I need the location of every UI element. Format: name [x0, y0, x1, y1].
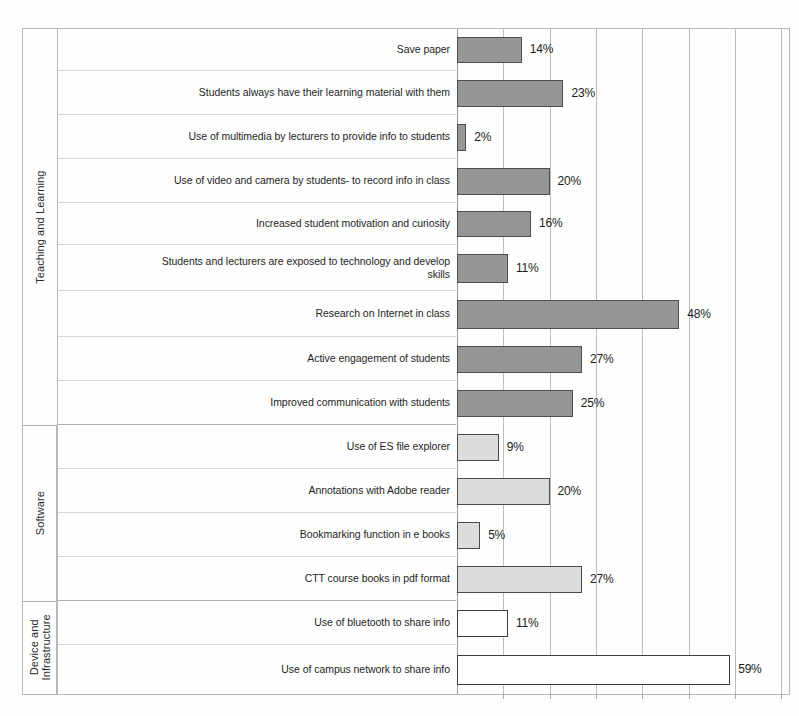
bar — [457, 254, 508, 283]
bar — [457, 124, 466, 151]
bar — [457, 478, 550, 505]
category-label-text: Use of video and camera by students- to … — [174, 174, 450, 187]
bar — [457, 434, 499, 461]
category-label-text: Save paper — [397, 43, 450, 56]
axis-tick — [689, 694, 690, 699]
category-label-row: CTT course books in pdf format — [58, 557, 456, 601]
bar-value-label: 9% — [507, 440, 524, 454]
group-axis-label-2: Software — [23, 425, 57, 601]
category-label-row: Use of campus network to share info — [58, 645, 456, 694]
category-label-text: Use of multimedia by lecturers to provid… — [189, 130, 450, 143]
category-label-row: Students and lecturers are exposed to te… — [58, 245, 456, 291]
axis-tick — [596, 694, 597, 699]
group-axis: Teaching and LearningSoftwareDevice and … — [23, 29, 57, 694]
axis-tick — [503, 694, 504, 699]
category-label-row: Use of ES file explorer — [58, 425, 456, 469]
bar — [457, 37, 522, 63]
category-label-row: Annotations with Adobe reader — [58, 469, 456, 513]
category-label-row: Save paper — [58, 29, 456, 71]
category-label-text: Active engagement of students — [307, 352, 450, 365]
group-axis-label-text: Teaching and Learning — [34, 170, 46, 283]
bar-row: 14% — [457, 29, 790, 71]
category-label-text: Use of ES file explorer — [347, 440, 450, 453]
bar — [457, 211, 531, 237]
bar — [457, 655, 730, 685]
bar-row: 2% — [457, 115, 790, 159]
bar-value-label: 5% — [488, 528, 505, 542]
group-axis-label-text: Device and Infrastructure — [28, 614, 53, 680]
category-label-text: Bookmarking function in e books — [300, 528, 450, 541]
plot-area: 14%23%2%20%16%11%48%27%25%9%20%5%27%11%5… — [457, 29, 790, 694]
bar-row: 48% — [457, 291, 790, 337]
category-label-text: Students and lecturers are exposed to te… — [150, 255, 450, 280]
category-label-text: CTT course books in pdf format — [305, 572, 450, 585]
bar — [457, 522, 480, 549]
bar-row: 20% — [457, 469, 790, 513]
category-label-row: Students always have their learning mate… — [58, 71, 456, 115]
bar — [457, 80, 563, 107]
category-label-row: Active engagement of students — [58, 337, 456, 381]
bar-value-label: 23% — [571, 86, 594, 100]
axis-tick — [781, 694, 782, 699]
bar-row: 11% — [457, 601, 790, 645]
bar-row: 5% — [457, 513, 790, 557]
bar-row: 20% — [457, 159, 790, 203]
category-label-row: Use of bluetooth to share info — [58, 601, 456, 645]
bar-value-label: 2% — [474, 130, 491, 144]
category-label-row: Research on Internet in class — [58, 291, 456, 337]
category-label-row: Improved communication with students — [58, 381, 456, 425]
bar-value-label: 20% — [558, 174, 581, 188]
bar-row: 16% — [457, 203, 790, 245]
axis-tick — [550, 694, 551, 699]
horizontal-bar-chart: Teaching and LearningSoftwareDevice and … — [0, 0, 799, 716]
category-label-text: Use of bluetooth to share info — [314, 616, 450, 629]
bar — [457, 610, 508, 637]
bar-value-label: 27% — [590, 572, 613, 586]
bar — [457, 346, 582, 373]
bar-value-label: 11% — [516, 616, 539, 630]
bar-row: 25% — [457, 381, 790, 425]
category-label-text: Annotations with Adobe reader — [308, 484, 450, 497]
bar-value-label: 27% — [590, 352, 613, 366]
group-axis-label-text: Software — [34, 491, 46, 535]
category-label-row: Bookmarking function in e books — [58, 513, 456, 557]
category-label-row: Use of multimedia by lecturers to provid… — [58, 115, 456, 159]
bar-value-label: 14% — [530, 42, 553, 56]
bar-row: 59% — [457, 645, 790, 694]
bar-value-label: 48% — [687, 307, 710, 321]
group-axis-label-3: Device and Infrastructure — [23, 601, 57, 694]
bar — [457, 390, 573, 417]
category-label-text: Use of campus network to share info — [281, 663, 450, 676]
axis-tick — [735, 694, 736, 699]
category-label-row: Increased student motivation and curiosi… — [58, 203, 456, 245]
bar-row: 23% — [457, 71, 790, 115]
bar-value-label: 59% — [738, 662, 761, 676]
bar-row: 11% — [457, 245, 790, 291]
bar-value-label: 20% — [558, 484, 581, 498]
bar-row: 27% — [457, 557, 790, 601]
axis-tick — [642, 694, 643, 699]
bar — [457, 300, 679, 329]
bar-value-label: 25% — [581, 396, 604, 410]
bar-row: 9% — [457, 425, 790, 469]
category-label-text: Students always have their learning mate… — [199, 86, 450, 99]
category-label-row: Use of video and camera by students- to … — [58, 159, 456, 203]
category-label-text: Increased student motivation and curiosi… — [256, 217, 450, 230]
bar-value-label: 11% — [516, 261, 539, 275]
bar — [457, 168, 550, 195]
category-label-text: Research on Internet in class — [315, 307, 450, 320]
category-label-text: Improved communication with students — [270, 396, 450, 409]
bar-value-label: 16% — [539, 216, 562, 230]
group-axis-label-1: Teaching and Learning — [23, 29, 57, 425]
bar — [457, 566, 582, 593]
category-label-column: Save paperStudents always have their lea… — [57, 29, 457, 694]
bar-row: 27% — [457, 337, 790, 381]
